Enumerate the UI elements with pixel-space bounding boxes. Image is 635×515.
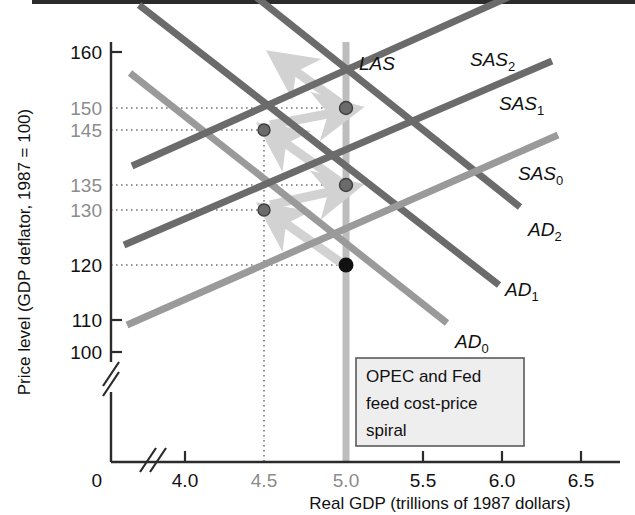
xtick-label-6-5: 6.5 xyxy=(568,470,594,491)
point-a2 xyxy=(258,124,270,136)
xtick-label-6-0: 6.0 xyxy=(489,470,515,491)
x-axis-title: Real GDP (trillions of 1987 dollars) xyxy=(309,494,570,513)
curve-label-SAS2: SAS2 xyxy=(470,49,515,74)
opec-fed-note: OPEC and Fed feed cost-price spiral xyxy=(356,358,524,446)
curve-label-LAS-text: LAS xyxy=(359,53,395,74)
figure-canvas: 160 150 145 135 130 120 110 100 0 4.0 4.… xyxy=(0,0,635,515)
ytick-label-130: 130 xyxy=(70,200,102,221)
point-e1 xyxy=(340,179,353,192)
xtick-label-4-5: 4.5 xyxy=(251,470,277,491)
top-rule xyxy=(32,0,635,4)
curve-label-SAS0: SAS0 xyxy=(518,163,563,188)
ytick-label-150: 150 xyxy=(70,98,102,119)
ytick-label-110: 110 xyxy=(72,310,102,331)
curve-label-AD2: AD2 xyxy=(527,219,562,244)
note-line-1: OPEC and Fed xyxy=(366,367,481,386)
curve-label-AD0: AD0 xyxy=(454,331,489,356)
origin-label: 0 xyxy=(91,470,102,491)
note-line-3: spiral xyxy=(366,421,407,440)
curve-label-AD1: AD1 xyxy=(504,279,539,304)
ytick-label-135: 135 xyxy=(70,175,102,196)
curve-label-SAS0-sub: 0 xyxy=(556,173,563,188)
xtick-label-4-0: 4.0 xyxy=(172,470,198,491)
point-e0 xyxy=(339,258,354,273)
ytick-label-100: 100 xyxy=(70,342,102,363)
curve-label-SAS1: SAS1 xyxy=(499,93,544,118)
ytick-label-160: 160 xyxy=(70,42,102,63)
point-a1 xyxy=(258,204,270,216)
xtick-label-5-0: 5.0 xyxy=(333,470,359,491)
y-axis-ticks xyxy=(111,52,122,352)
curve-label-AD0-text: AD xyxy=(454,331,482,352)
y-axis-title: Price level (GDP deflator, 1987 = 100) xyxy=(15,109,34,396)
ytick-label-145: 145 xyxy=(70,120,102,141)
point-e2 xyxy=(340,102,353,115)
curve-label-AD2-sub: 2 xyxy=(554,229,561,244)
note-line-2: feed cost-price xyxy=(366,394,478,413)
curve-label-SAS0-text: SAS xyxy=(518,163,556,184)
curve-label-AD1-sub: 1 xyxy=(531,289,538,304)
curve-label-SAS1-text: SAS xyxy=(499,93,537,114)
xtick-label-5-5: 5.5 xyxy=(410,470,436,491)
curve-SAS2 xyxy=(132,0,511,166)
economics-chart: 160 150 145 135 130 120 110 100 0 4.0 4.… xyxy=(0,0,635,515)
ytick-label-120: 120 xyxy=(70,255,102,276)
curve-label-AD1-text: AD xyxy=(504,279,532,300)
curve-SAS1 xyxy=(124,61,552,245)
curve-label-LAS: LAS xyxy=(359,53,395,74)
curve-label-AD0-sub: 0 xyxy=(481,341,488,356)
x-axis-ticks xyxy=(185,451,581,462)
curve-label-SAS2-sub: 2 xyxy=(508,59,515,74)
curve-label-AD2-text: AD xyxy=(527,219,555,240)
curve-label-SAS1-sub: 1 xyxy=(537,103,544,118)
curve-label-SAS2-text: SAS xyxy=(470,49,508,70)
axis-break-marks xyxy=(103,362,166,472)
